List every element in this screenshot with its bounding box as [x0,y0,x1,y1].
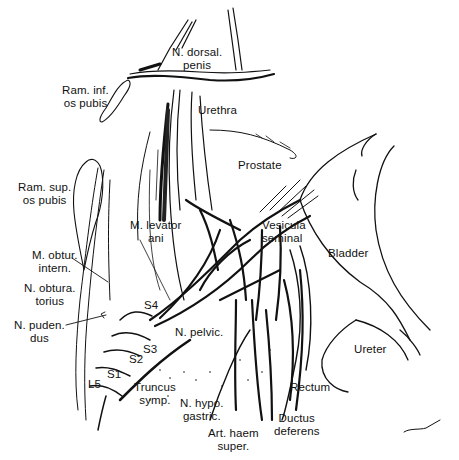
label-m-levator-ani: M. levator ani [130,219,182,245]
label-bladder: Bladder [328,247,368,260]
levator-ani-shading [140,110,170,300]
label-l5: L5 [88,378,101,391]
label-ureter: Ureter [354,343,387,356]
anatomical-figure: N. dorsal. penis Ram. inf. os pubis Uret… [0,0,459,460]
label-m-obtur-intern: M. obtur. intern. [32,249,78,275]
label-n-hypogastric: N. hypo. gastric. [180,397,224,423]
label-urethra: Urethra [198,104,237,117]
label-prostate: Prostate [238,159,282,172]
label-vesicula-seminal: Vesicula seminal [262,219,306,245]
label-rectum: Rectum [290,381,330,394]
label-ram-sup-os-pubis: Ram. sup. os pubis [18,181,71,207]
label-n-pelvic: N. pelvic. [175,326,223,339]
signature-mark [404,420,440,432]
label-s4: S4 [144,299,158,312]
label-n-obturatorius: N. obtura. torius [24,282,76,308]
label-s2: S2 [129,353,143,366]
label-s3: S3 [143,343,157,356]
label-ram-inf-os-pubis: Ram. inf. os pubis [62,84,109,110]
label-n-pudendus: N. puden. dus [14,319,65,345]
label-n-dorsal-penis: N. dorsal. penis [172,46,222,72]
seminal-vesicle-strands [260,180,318,218]
label-s1: S1 [107,368,121,381]
bladder-outline [300,134,430,340]
label-ductus-deferens: Ductus deferens [274,412,320,438]
pelvic-nerve-line-drawing [0,0,459,460]
label-truncus-symp: Truncus symp. [134,381,176,407]
ramus-superior-outline [74,159,103,270]
label-art-haem-super: Art. haem super. [208,427,259,453]
